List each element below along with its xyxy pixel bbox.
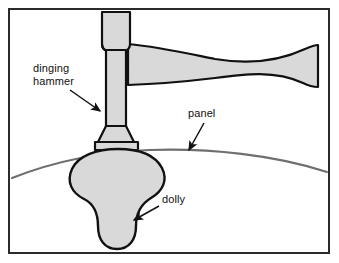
diagram-figure: dinging hammer panel dolly <box>0 0 339 263</box>
label-panel: panel <box>188 107 215 119</box>
dinging-hammer-shaft <box>106 50 126 126</box>
label-dinging-hammer-line2: hammer <box>33 75 74 87</box>
label-dolly: dolly <box>162 193 186 205</box>
diagram-canvas: dinging hammer panel dolly <box>0 0 339 263</box>
label-dinging-hammer-line1: dinging <box>33 62 69 74</box>
figure-background <box>0 0 339 263</box>
